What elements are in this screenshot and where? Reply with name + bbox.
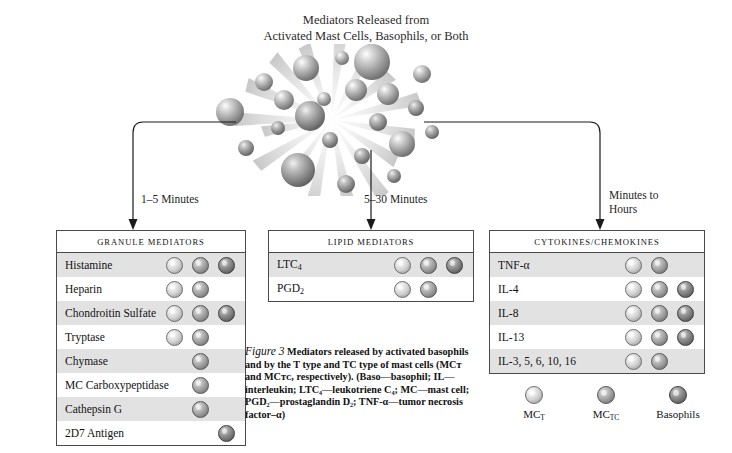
cell-type-slot (161, 257, 187, 274)
mediator-name: Tryptase (57, 331, 105, 343)
cell-type-markers (620, 253, 698, 277)
legend-swatch (572, 386, 640, 404)
cell-type-slot (187, 257, 213, 274)
granule-sphere-baso (677, 305, 694, 322)
cell-type-slot (646, 353, 672, 370)
table-row: Chondroitin Sulfate (57, 301, 245, 325)
mediator-name: 2D7 Antigen (57, 427, 124, 439)
table-row: IL-8 (490, 301, 704, 325)
figure-caption-number: Figure 3 (245, 345, 285, 357)
cell-type-slot (415, 281, 441, 298)
figure-title-line-1: Mediators Released from (0, 12, 732, 28)
table-row: Histamine (57, 253, 245, 277)
cell-type-slot (187, 377, 213, 394)
cell-type-slot (161, 281, 187, 298)
granule-sphere-t (166, 257, 183, 274)
mast-cell-degranulation-burst (206, 44, 456, 196)
mediator-name: IL-4 (490, 283, 518, 295)
granule-sphere-tc (651, 281, 668, 298)
cell-type-slot (646, 329, 672, 346)
granule-sphere-tc (651, 305, 668, 322)
table-row: Tryptase (57, 325, 245, 349)
mediator-name: IL-8 (490, 307, 518, 319)
granule-sphere-tc (192, 353, 209, 370)
table-row: IL-3, 5, 6, 10, 16 (490, 349, 704, 373)
cell-type-slot (620, 257, 646, 274)
legend-item-mc-tc: MCTC (572, 386, 640, 422)
table-row: LTC4 (269, 253, 473, 277)
cell-type-slot (213, 257, 239, 274)
granule-sphere-t (166, 281, 183, 298)
cell-type-slot (187, 353, 213, 370)
panel-header-granule: Granule Mediators (57, 231, 245, 253)
table-row: Heparin (57, 277, 245, 301)
granule-sphere-tc (192, 329, 209, 346)
cell-type-slot (187, 401, 213, 418)
cell-type-slot (389, 281, 415, 298)
mediator-name: IL-3, 5, 6, 10, 16 (490, 355, 576, 367)
granule-sphere-baso (677, 329, 694, 346)
granule-sphere-t (625, 353, 642, 370)
mediator-name: Heparin (57, 283, 102, 295)
legend-label: MCTC (572, 408, 640, 422)
figure-caption-text: Mediators released by activated basophil… (245, 346, 469, 420)
granule-sphere-tc (651, 257, 668, 274)
granule-sphere-t (166, 305, 183, 322)
cell-type-slot (646, 257, 672, 274)
mediator-row-list: LTC4PGD2 (269, 253, 473, 301)
cell-type-slot (620, 329, 646, 346)
mediator-name: TNF-α (490, 259, 530, 271)
granule-sphere-tc (192, 377, 209, 394)
timing-label-lipid: 5–30 Minutes (364, 192, 428, 206)
cell-type-markers (161, 397, 239, 421)
granule-sphere-t (625, 257, 642, 274)
granule-sphere-baso (677, 281, 694, 298)
cell-type-markers (620, 277, 698, 301)
granule-sphere-t (625, 305, 642, 322)
legend-item-basophils: Basophils (644, 386, 712, 422)
cell-type-slot (187, 281, 213, 298)
cell-type-slot (415, 257, 441, 274)
cell-type-markers (161, 253, 239, 277)
cell-type-markers (161, 301, 239, 325)
table-row: PGD2 (269, 277, 473, 301)
cell-type-markers (620, 349, 698, 373)
panel-cytokines-chemokines: Cytokines/ChemokinesTNF-αIL-4IL-8IL-13IL… (489, 230, 705, 374)
granule-sphere-baso (218, 257, 235, 274)
granule-sphere-t (394, 257, 411, 274)
granule-sphere-tc (192, 281, 209, 298)
granule-sphere-baso (446, 257, 463, 274)
granule-sphere-t (625, 329, 642, 346)
granule-sphere-baso (669, 386, 687, 404)
granule-sphere-tc (597, 386, 615, 404)
panel-header-cytokine: Cytokines/Chemokines (490, 231, 704, 253)
cell-type-markers (389, 277, 467, 301)
mediator-name: PGD2 (269, 282, 304, 296)
table-row: IL-13 (490, 325, 704, 349)
mediator-name: Chondroitin Sulfate (57, 307, 156, 319)
mediator-name: IL-13 (490, 331, 524, 343)
granule-sphere-tc (420, 257, 437, 274)
timing-label-granule: 1–5 Minutes (141, 192, 199, 206)
legend-label: Basophils (644, 408, 712, 420)
granule-sphere-t (525, 386, 543, 404)
cell-type-slot (646, 281, 672, 298)
legend-label: MCT (500, 408, 568, 422)
granule-sphere-tc (192, 401, 209, 418)
granule-sphere-baso (218, 305, 235, 322)
cell-type-slot (161, 305, 187, 322)
table-row: MC Carboxypeptidase (57, 373, 245, 397)
cell-type-slot (620, 353, 646, 370)
table-row: TNF-α (490, 253, 704, 277)
granule-sphere-tc (651, 353, 668, 370)
mediator-name: Histamine (57, 259, 112, 271)
figure-caption: Figure 3 Mediators released by activated… (245, 345, 473, 422)
panel-granule-mediators: Granule MediatorsHistamineHeparinChondro… (56, 230, 246, 446)
granule-sphere-tc (651, 329, 668, 346)
legend-swatch (644, 386, 712, 404)
cell-type-legend: MCTMCTCBasophils (500, 386, 712, 422)
legend-swatch (500, 386, 568, 404)
cell-type-markers (161, 277, 239, 301)
granule-sphere-baso (218, 425, 235, 442)
granule-sphere-t (166, 329, 183, 346)
